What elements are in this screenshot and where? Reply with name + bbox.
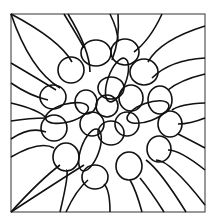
curve-line xyxy=(11,165,84,212)
circle-shape xyxy=(82,165,108,189)
curve-line xyxy=(140,178,164,212)
curve-line xyxy=(104,184,110,212)
circle-shape xyxy=(116,152,142,180)
curve-line xyxy=(130,180,142,212)
line-art-pattern xyxy=(0,0,216,222)
circle-group xyxy=(40,39,182,189)
circle-shape xyxy=(147,136,171,162)
curve-line xyxy=(11,63,56,90)
curve-line xyxy=(11,118,46,121)
curve-line xyxy=(11,83,48,100)
curve-line xyxy=(64,14,84,48)
curve-line xyxy=(172,103,205,110)
curve-line xyxy=(156,160,205,205)
circle-shape xyxy=(130,59,158,85)
curve-line xyxy=(168,150,205,170)
curve-line xyxy=(148,26,205,62)
curve-line xyxy=(11,103,46,118)
curve-line xyxy=(11,165,60,212)
curve-line xyxy=(168,74,205,90)
curve-line xyxy=(11,145,54,157)
curve-line xyxy=(152,58,205,78)
curve-line xyxy=(146,160,186,212)
circle-shape xyxy=(41,115,67,141)
curve-line xyxy=(178,134,205,148)
circle-shape xyxy=(81,40,111,66)
